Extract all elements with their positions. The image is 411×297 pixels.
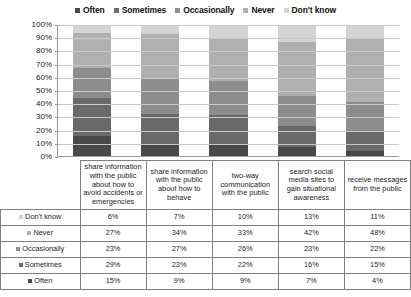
y-axis-tick-mark: [55, 78, 58, 79]
series-label: Occasionally: [22, 244, 64, 253]
table-value-cell: 6%: [80, 210, 146, 226]
y-axis-tick-label: 20%: [36, 127, 52, 135]
y-axis-tick-mark: [55, 117, 58, 118]
gridline: [58, 144, 399, 145]
legend-label: Never: [251, 6, 274, 15]
y-axis-tick-mark: [55, 131, 58, 132]
bar-segment[interactable]: [141, 144, 179, 156]
table-row: Sometimes29%23%22%16%15%: [1, 258, 411, 274]
bar-segment[interactable]: [73, 25, 111, 33]
gridline: [58, 131, 399, 132]
table-value-cell: 4%: [344, 274, 410, 290]
series-swatch-icon: [28, 279, 32, 283]
bar-segment[interactable]: [141, 79, 179, 114]
table-row-label-cell: Often: [1, 274, 81, 290]
table-value-cell: 9%: [146, 274, 212, 290]
gridline: [58, 25, 399, 26]
table-row: Don't know6%7%10%13%11%: [1, 210, 411, 226]
bar-segment[interactable]: [73, 68, 111, 98]
table-value-cell: 27%: [80, 226, 146, 242]
table-value-cell: 23%: [278, 242, 344, 258]
y-axis-tick-label: 60%: [36, 74, 52, 82]
bar-segment[interactable]: [278, 42, 316, 96]
series-swatch-icon: [16, 247, 20, 251]
legend-label: Don't know: [292, 6, 336, 15]
legend-item[interactable]: Sometimes: [114, 6, 166, 15]
gridline: [58, 38, 399, 39]
legend-label: Often: [83, 6, 105, 15]
legend-item[interactable]: Never: [243, 6, 274, 15]
table-column-header: search social media sites to gain situat…: [278, 161, 344, 210]
table-value-cell: 7%: [146, 210, 212, 226]
table-value-cell: 15%: [80, 274, 146, 290]
table-value-cell: 48%: [344, 226, 410, 242]
y-axis-tick-mark: [55, 91, 58, 92]
y-axis-tick-label: 70%: [36, 61, 52, 69]
bar-segment[interactable]: [278, 96, 316, 126]
table-row-label-cell: Don't know: [1, 210, 81, 226]
bar-segment[interactable]: [278, 147, 316, 156]
y-axis-tick-mark: [55, 25, 58, 26]
table-column-header: share information with the public about …: [146, 161, 212, 210]
bar-segment[interactable]: [209, 38, 247, 81]
table-value-cell: 11%: [344, 210, 410, 226]
legend-item[interactable]: Occasionally: [175, 6, 234, 15]
table-value-cell: 29%: [80, 258, 146, 274]
y-axis-tick-label: 50%: [36, 87, 52, 95]
series-swatch-icon: [19, 215, 23, 219]
table-column-header: share information with the public about …: [80, 161, 146, 210]
bar-segment[interactable]: [141, 114, 179, 144]
table-value-cell: 27%: [146, 242, 212, 258]
table-value-cell: 15%: [344, 258, 410, 274]
legend-swatch-icon: [114, 8, 119, 13]
bar-segment[interactable]: [209, 144, 247, 156]
bar-segment[interactable]: [73, 136, 111, 156]
y-axis-tick-label: 90%: [36, 34, 52, 42]
bar-segment[interactable]: [346, 131, 384, 151]
table-value-cell: 42%: [278, 226, 344, 242]
bar-segment[interactable]: [141, 34, 179, 79]
legend-label: Occasionally: [183, 6, 234, 15]
bar-segment[interactable]: [346, 151, 384, 156]
table-value-cell: 22%: [212, 258, 278, 274]
table-value-cell: 34%: [146, 226, 212, 242]
legend-swatch-icon: [175, 8, 180, 13]
table-corner-cell: [1, 161, 81, 210]
table-value-cell: 7%: [278, 274, 344, 290]
plot-area: [57, 25, 399, 157]
legend-label: Sometimes: [122, 6, 166, 15]
y-axis-tick-mark: [55, 144, 58, 145]
bar-segment[interactable]: [209, 25, 247, 38]
legend-item[interactable]: Don't know: [284, 6, 336, 15]
table-row: Often15%9%9%7%4%: [1, 274, 411, 290]
y-axis-tick-mark: [55, 104, 58, 105]
data-table-body: share information with the public about …: [1, 161, 411, 290]
y-axis-tick-label: 100%: [32, 21, 52, 29]
y-axis: 100%90%80%70%60%50%40%30%20%10%0%: [0, 22, 55, 160]
stacked-bar-chart-figure: OftenSometimesOccasionallyNeverDon't kno…: [0, 0, 411, 297]
table-value-cell: 26%: [212, 242, 278, 258]
table-value-cell: 13%: [278, 210, 344, 226]
y-axis-tick-label: 40%: [36, 100, 52, 108]
table-value-cell: 9%: [212, 274, 278, 290]
table-column-header: receive messages from the public: [344, 161, 410, 210]
bar-segment[interactable]: [346, 39, 384, 102]
legend-item[interactable]: Often: [75, 6, 105, 15]
bar-segment[interactable]: [209, 81, 247, 115]
table-row-label-cell: Occasionally: [1, 242, 81, 258]
y-axis-tick-label: 10%: [36, 140, 52, 148]
table-value-cell: 10%: [212, 210, 278, 226]
gridline: [58, 78, 399, 79]
chart-legend: OftenSometimesOccasionallyNeverDon't kno…: [0, 6, 411, 15]
plot-wrapper: 100%90%80%70%60%50%40%30%20%10%0%: [0, 22, 411, 160]
legend-swatch-icon: [75, 8, 80, 13]
table-row-label-cell: Never: [1, 226, 81, 242]
y-axis-tick-label: 80%: [36, 47, 52, 55]
bar-segment[interactable]: [141, 25, 179, 34]
series-label: Sometimes: [25, 260, 62, 269]
table-column-header: two-way communication with the public: [212, 161, 278, 210]
series-label: Don't know: [25, 212, 61, 221]
bar-segment[interactable]: [278, 25, 316, 42]
y-axis-tick-mark: [55, 38, 58, 39]
table-row-label-cell: Sometimes: [1, 258, 81, 274]
